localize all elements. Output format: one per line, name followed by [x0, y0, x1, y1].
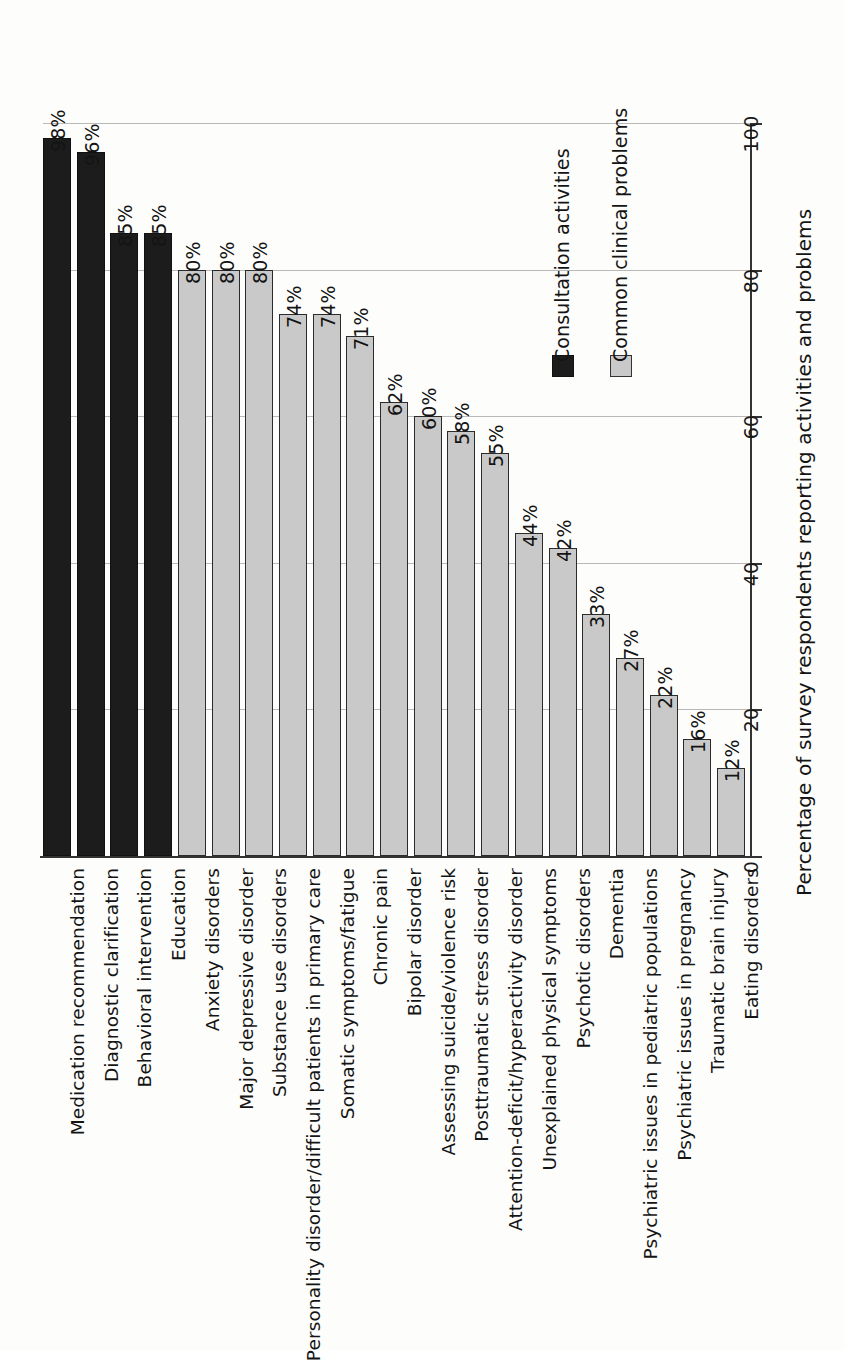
bar-value-label: 85% [148, 204, 170, 247]
category-label: Posttraumatic stress disorder [471, 868, 492, 1142]
category-label: Assessing suicide/violence risk [438, 868, 459, 1156]
bar [582, 614, 610, 856]
bar [313, 314, 341, 856]
bar [414, 416, 442, 856]
bar [43, 138, 71, 856]
gridline [43, 123, 750, 124]
bar-value-label: 42% [553, 519, 575, 562]
bar-value-label: 58% [451, 402, 473, 445]
axis-tick-label: 100 [740, 116, 762, 153]
bar-value-label: 80% [249, 241, 271, 284]
category-label: Unexplained physical symptoms [539, 868, 560, 1171]
bar-value-label: 96% [81, 123, 103, 166]
axis-tick-label: 60 [740, 415, 762, 440]
value-axis-line [750, 123, 752, 858]
category-label: Diagnostic clarification [101, 868, 122, 1082]
bar-value-label: 12% [721, 739, 743, 782]
category-label: Education [168, 868, 189, 961]
bar [650, 695, 678, 856]
category-label: Traumatic brain injury [707, 868, 728, 1073]
bar-value-label: 55% [485, 424, 507, 467]
category-label: Psychiatric issues in pediatric populati… [640, 868, 661, 1259]
bar [549, 548, 577, 856]
category-label: Anxiety disorders [202, 868, 223, 1031]
category-label: Psychotic disorders [573, 868, 594, 1048]
axis-tick [750, 856, 762, 858]
bar-value-label: 27% [620, 629, 642, 672]
category-label: Behavioral intervention [134, 868, 155, 1087]
bar-value-label: 98% [47, 109, 69, 152]
category-label: Attention-deficit/hyperactivity disorder [505, 868, 526, 1231]
axis-tick-label: 80 [740, 268, 762, 293]
bar-value-label: 85% [114, 204, 136, 247]
bar-value-label: 74% [317, 285, 339, 328]
category-label: Eating disorders [741, 868, 762, 1020]
bar-value-label: 80% [182, 241, 204, 284]
axis-tick-label: 20 [740, 708, 762, 733]
bar [279, 314, 307, 856]
bar [447, 431, 475, 856]
bar [178, 270, 206, 856]
category-label: Psychiatric issues in pregnancy [674, 868, 695, 1161]
category-label: Substance use disorders [269, 868, 290, 1097]
bar [481, 453, 509, 856]
bar [77, 152, 105, 856]
bar [245, 270, 273, 856]
bar [380, 402, 408, 856]
axis-tick-label: 40 [740, 562, 762, 587]
bar-value-label: 22% [654, 666, 676, 709]
category-label: Chronic pain [370, 868, 391, 985]
value-axis-title: Percentage of survey respondents reporti… [792, 209, 816, 896]
bar-value-label: 60% [418, 387, 440, 430]
bar [212, 270, 240, 856]
category-label: Medication recommendation [67, 868, 88, 1135]
axis-baseline [40, 856, 752, 858]
bar [515, 533, 543, 856]
bar-value-label: 71% [350, 307, 372, 350]
bar-value-label: 44% [519, 505, 541, 548]
category-label: Bipolar disorder [404, 868, 425, 1016]
category-label: Personality disorder/difficult patients … [303, 868, 324, 1361]
bar-value-label: 74% [283, 285, 305, 328]
bar-value-label: 33% [586, 585, 608, 628]
bar [110, 233, 138, 856]
category-label: Major depressive disorder [236, 868, 257, 1110]
category-label: Somatic symptoms/fatigue [337, 868, 358, 1119]
bar-value-label: 62% [384, 373, 406, 416]
legend-label: Common clinical problems [609, 108, 631, 362]
bar-value-label: 80% [216, 241, 238, 284]
bar [683, 739, 711, 856]
bar-value-label: 16% [687, 710, 709, 753]
bar [346, 336, 374, 856]
legend-label: Consultation activities [551, 148, 573, 362]
bar [144, 233, 172, 856]
category-label: Dementia [606, 868, 627, 959]
bar [616, 658, 644, 856]
